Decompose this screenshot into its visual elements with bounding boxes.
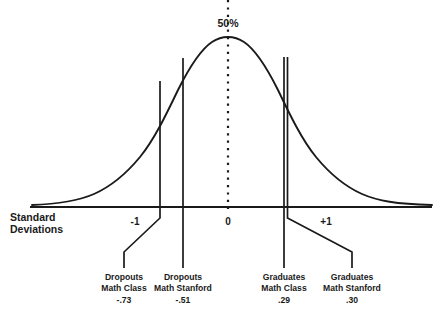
normal-distribution-chart: 50% Standard Deviations -1 0 +1 Dropouts… (0, 0, 444, 318)
callout-graduates-math-stanford: Graduates Math Stanford .30 (323, 272, 381, 305)
peak-percentage-label: 50% (217, 17, 239, 29)
callout-dropouts-math-class-group: Dropouts (105, 272, 143, 282)
axis-title-line-1: Standard (10, 211, 56, 223)
tick-label-plus-one: +1 (320, 216, 332, 227)
leader-line-dropouts-math-class (124, 208, 160, 268)
chart-canvas: 50% Standard Deviations -1 0 +1 Dropouts… (0, 0, 444, 318)
callout-graduates-math-class: Graduates Math Class .29 (261, 272, 307, 305)
callout-dropouts-math-stanford-test: Math Stanford (154, 283, 212, 293)
callout-dropouts-math-stanford: Dropouts Math Stanford -.51 (154, 272, 212, 305)
callout-graduates-math-class-group: Graduates (263, 272, 306, 282)
bell-curve-path (32, 37, 432, 205)
tick-label-zero: 0 (225, 216, 231, 227)
callout-dropouts-math-stanford-group: Dropouts (164, 272, 202, 282)
callout-dropouts-math-class-test: Math Class (101, 283, 147, 293)
callout-graduates-math-stanford-value: .30 (346, 295, 358, 305)
callout-graduates-math-stanford-group: Graduates (331, 272, 374, 282)
axis-title-line-2: Deviations (10, 223, 63, 235)
callout-graduates-math-class-test: Math Class (261, 283, 307, 293)
callout-dropouts-math-class-value: -.73 (117, 295, 132, 305)
callout-dropouts-math-class: Dropouts Math Class -.73 (101, 272, 147, 305)
tick-label-minus-one: -1 (131, 216, 140, 227)
callout-graduates-math-class-value: .29 (278, 295, 290, 305)
callout-graduates-math-stanford-test: Math Stanford (323, 283, 381, 293)
callout-dropouts-math-stanford-value: -.51 (176, 295, 191, 305)
